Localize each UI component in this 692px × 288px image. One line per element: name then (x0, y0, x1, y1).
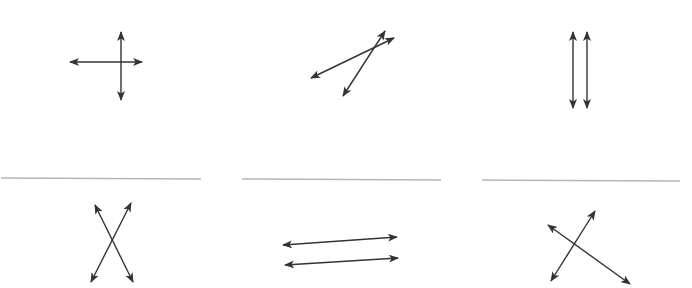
panel-5-parallel (283, 237, 398, 265)
line-pairs-diagram (0, 0, 692, 288)
double-arrow-line-icon (91, 203, 131, 282)
panel-group (70, 31, 630, 284)
panel-1-perpendicular (70, 32, 142, 100)
divider-line-1 (1, 178, 201, 179)
divider-line-3 (482, 180, 680, 181)
panel-6-perpendicular (548, 211, 630, 284)
divider-group (1, 178, 680, 181)
double-arrow-line-icon (551, 211, 595, 281)
double-arrow-line-icon (311, 38, 394, 78)
double-arrow-line-icon (343, 31, 385, 96)
double-arrow-line-icon (95, 205, 133, 282)
double-arrow-line-icon (548, 225, 630, 284)
panel-4-intersecting (91, 203, 133, 282)
panel-2-intersecting (311, 31, 394, 96)
double-arrow-line-icon (283, 237, 397, 245)
divider-line-2 (242, 179, 441, 180)
double-arrow-line-icon (285, 258, 398, 265)
panel-3-parallel (573, 32, 587, 108)
